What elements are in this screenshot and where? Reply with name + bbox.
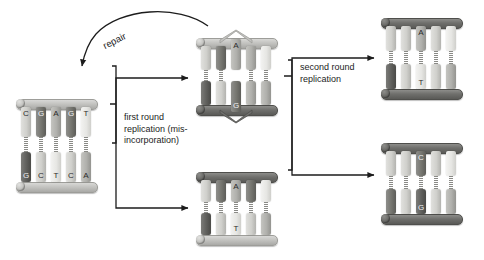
base-letter: A — [233, 41, 238, 50]
bottom-backbone-cap — [16, 182, 25, 191]
bottom-backbone — [381, 214, 463, 225]
base-letter: G — [68, 109, 74, 118]
nucleotide-bottom — [246, 81, 256, 105]
nucleotide-top: A — [231, 39, 241, 70]
nucleotide-top — [261, 46, 271, 70]
hydrogen-bond — [24, 137, 28, 152]
hydrogen-bond — [449, 176, 453, 189]
nucleotide-top — [201, 180, 211, 202]
nucleotide-top — [401, 151, 411, 176]
second-round-bracket — [284, 60, 292, 170]
nucleotide-bottom: T — [416, 64, 426, 89]
nucleotide-bottom — [401, 189, 411, 214]
base-letter: T — [419, 78, 424, 87]
second-round-label: second round replication — [300, 62, 384, 85]
base-letter: C — [68, 171, 74, 180]
base-letter: T — [54, 171, 59, 180]
base-letter: C — [38, 171, 44, 180]
nucleotide-bottom: T — [231, 213, 241, 235]
nucleotide-top — [431, 151, 441, 176]
nucleotide-top — [261, 180, 271, 202]
hydrogen-bond — [264, 202, 268, 213]
nucleotide-top — [431, 26, 441, 51]
hydrogen-bond — [54, 137, 58, 152]
base-letter: G — [23, 171, 29, 180]
nucleotide-bottom: T — [51, 152, 61, 182]
nucleotide-top: G — [36, 107, 46, 137]
nucleotide-bottom — [201, 213, 211, 235]
first-round-arrow-upper — [116, 78, 188, 104]
base-letter: A — [53, 109, 58, 118]
hydrogen-bond — [419, 176, 423, 189]
nucleotide-bottom: G — [231, 81, 241, 112]
hydrogen-bond — [219, 70, 223, 81]
hydrogen-bond — [219, 202, 223, 213]
bottom-backbone-cap — [381, 89, 390, 98]
diagram-canvas: repair first round replication (mis- inc… — [0, 0, 484, 260]
hydrogen-bond — [404, 176, 408, 189]
bottom-backbone — [16, 182, 98, 193]
nucleotide-top — [386, 26, 396, 51]
nucleotide-top: A — [51, 107, 61, 137]
nucleotide-bottom: A — [81, 152, 91, 182]
hydrogen-bond — [249, 70, 253, 81]
hydrogen-bond — [204, 70, 208, 81]
nucleotide-bottom — [216, 213, 226, 235]
base-letter: G — [418, 203, 424, 212]
a-t-duplex-top-right: AT — [381, 18, 465, 98]
nucleotide-bottom: C — [66, 152, 76, 182]
nucleotide-top — [216, 46, 226, 70]
nucleotide-bottom — [261, 213, 271, 235]
nucleotide-bottom — [216, 81, 226, 105]
nucleotide-bottom — [386, 64, 396, 89]
base-letter: T — [84, 109, 89, 118]
nucleotide-top — [246, 180, 256, 202]
hydrogen-bond — [434, 176, 438, 189]
hydrogen-bond — [404, 51, 408, 64]
bottom-backbone-cap — [196, 105, 205, 114]
nucleotide-top: A — [231, 180, 241, 202]
nucleotide-bottom — [431, 189, 441, 214]
nucleotide-top — [386, 151, 396, 176]
nucleotide-bottom — [446, 189, 456, 214]
hydrogen-bond — [449, 51, 453, 64]
first-round-label: first round replication (mis- incorporat… — [124, 112, 202, 147]
nucleotide-bottom — [201, 81, 211, 105]
hydrogen-bond — [389, 176, 393, 189]
nucleotide-top — [216, 180, 226, 202]
hydrogen-bond — [204, 202, 208, 213]
nucleotide-top: T — [81, 107, 91, 137]
hydrogen-bond — [69, 137, 73, 152]
hydrogen-bond — [234, 202, 238, 213]
nucleotide-bottom: C — [36, 152, 46, 182]
nucleotide-top — [201, 46, 211, 70]
hydrogen-bond — [249, 202, 253, 213]
base-letter: C — [418, 153, 424, 162]
nucleotide-bottom: G — [416, 189, 426, 214]
nucleotide-top — [401, 26, 411, 51]
nucleotide-top — [246, 46, 256, 70]
parent-duplex: CGGCATGCTA — [16, 99, 100, 191]
first-round-bracket — [110, 66, 116, 143]
base-letter: G — [38, 109, 44, 118]
second-round-arrow-lower — [292, 76, 374, 175]
bottom-backbone — [381, 89, 463, 100]
base-letter: G — [233, 101, 239, 110]
hydrogen-bond — [434, 51, 438, 64]
nucleotide-bottom — [246, 213, 256, 235]
nucleotide-top: G — [66, 107, 76, 137]
c-g-duplex-bottom-right: CG — [381, 143, 465, 223]
base-letter: A — [233, 182, 238, 191]
base-letter: T — [234, 224, 239, 233]
mismatched-duplex-with-bulge: AG — [196, 30, 280, 122]
nucleotide-top: A — [416, 26, 426, 51]
nucleotide-bottom — [386, 189, 396, 214]
hydrogen-bond — [264, 70, 268, 81]
hydrogen-bond — [84, 137, 88, 152]
base-letter: A — [83, 171, 88, 180]
base-letter: A — [418, 28, 423, 37]
bottom-backbone — [196, 235, 278, 246]
repair-arrow — [82, 12, 208, 66]
nucleotide-bottom — [261, 81, 271, 105]
hydrogen-bond — [389, 51, 393, 64]
